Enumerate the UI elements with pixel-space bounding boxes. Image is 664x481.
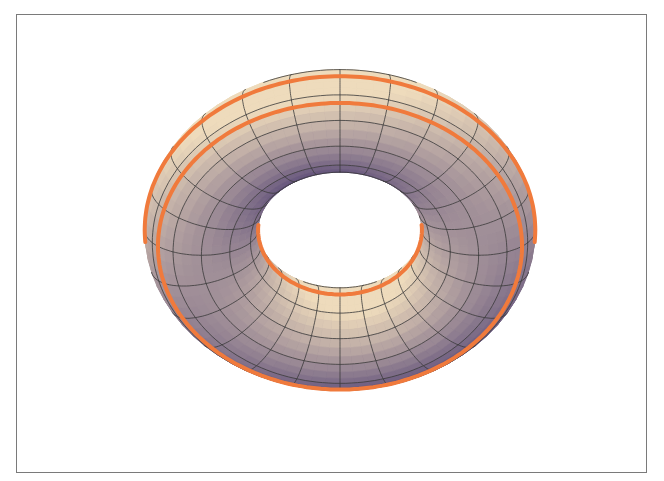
torus-figure	[0, 0, 664, 481]
torus-surface	[145, 70, 536, 391]
